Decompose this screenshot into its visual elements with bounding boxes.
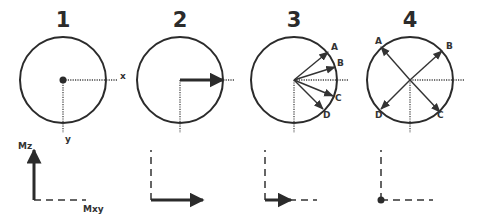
mxy-label: Mxy	[83, 204, 104, 214]
panel-2: 2	[137, 8, 235, 133]
vector-c	[410, 80, 440, 112]
vector-c-label: C	[437, 110, 444, 120]
vector-b-label: B	[337, 58, 344, 68]
center-dot	[60, 77, 67, 84]
vector-a	[294, 52, 328, 80]
mz-label: Mz	[18, 141, 32, 151]
vector-a-label: A	[375, 36, 382, 46]
panel-3-number: 3	[287, 8, 302, 32]
vector-c	[294, 80, 333, 96]
vector-c-label: C	[335, 93, 342, 103]
y-axis-label: y	[65, 134, 71, 144]
x-axis-label: x	[120, 71, 126, 81]
vector-b	[410, 51, 442, 80]
panel-4-number: 4	[403, 8, 418, 32]
panel-1-number: 1	[56, 8, 71, 32]
vector-a	[381, 47, 410, 80]
vector-d	[381, 80, 410, 109]
vector-b	[294, 67, 335, 80]
vector-d	[294, 80, 323, 109]
panel-2-number: 2	[173, 8, 188, 32]
vector-d-label: D	[323, 110, 330, 120]
panel-1: 1 x y	[20, 8, 126, 144]
vector-a-label: A	[331, 42, 338, 52]
bottom-axes-row: MzMxy	[18, 141, 433, 214]
panel-4: 4 A B C D	[367, 8, 465, 133]
vector-d-label: D	[375, 110, 382, 120]
panel-3: 3 A B C D	[251, 8, 349, 133]
diagram-canvas: 1 x y 2 3 A B C D 4	[0, 0, 481, 218]
vector-b-label: B	[446, 41, 453, 51]
zero-magnetization-dot	[378, 197, 385, 204]
